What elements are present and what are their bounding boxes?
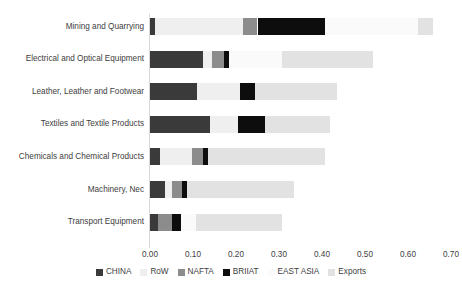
legend-label: BRIIAT	[233, 267, 259, 277]
legend-swatch-icon	[268, 269, 275, 276]
bar-segment-china[interactable]	[150, 181, 165, 198]
bar-segment-nafta[interactable]	[192, 148, 203, 165]
legend-item-east-asia[interactable]: EAST ASIA	[268, 267, 320, 277]
bar-segment-exports[interactable]	[187, 181, 295, 198]
bar-segment-china[interactable]	[150, 83, 197, 100]
bar-segment-briiat[interactable]	[238, 116, 265, 133]
legend-label: NAFTA	[188, 267, 214, 277]
legend-item-nafta[interactable]: NAFTA	[178, 267, 214, 277]
bar-segment-briiat[interactable]	[240, 83, 255, 100]
bar-segment-nafta[interactable]	[158, 214, 172, 231]
bar-segment-row[interactable]	[210, 116, 238, 133]
legend-item-exports[interactable]: Exports	[328, 267, 366, 277]
bar-segment-row[interactable]	[165, 181, 172, 198]
bar-segment-briiat[interactable]	[172, 214, 180, 231]
bar-segment-briiat[interactable]	[258, 18, 326, 35]
bar-row	[0, 83, 462, 100]
bar-segment-nafta[interactable]	[243, 18, 257, 35]
legend-swatch-icon	[140, 269, 147, 276]
x-tick-label: 0.30	[259, 250, 299, 260]
legend-swatch-icon	[223, 269, 230, 276]
bar-segment-exports[interactable]	[265, 116, 330, 133]
bar-segment-nafta[interactable]	[212, 51, 223, 68]
bar-row	[0, 181, 462, 198]
bar-segment-exports[interactable]	[418, 18, 433, 35]
bar-segment-row[interactable]	[197, 83, 240, 100]
bar-row	[0, 148, 462, 165]
legend-swatch-icon	[96, 269, 103, 276]
bar-segment-east-asia[interactable]	[325, 18, 417, 35]
bar-segment-china[interactable]	[150, 214, 158, 231]
legend-label: Exports	[338, 267, 366, 277]
legend-item-china[interactable]: CHINA	[96, 267, 131, 277]
bar-segment-exports[interactable]	[255, 83, 337, 100]
bar-row	[0, 214, 462, 231]
bar-segment-exports[interactable]	[282, 51, 372, 68]
plot-area: Mining and QuarryingElectrical and Optic…	[0, 0, 462, 290]
legend-item-briiat[interactable]: BRIIAT	[223, 267, 259, 277]
bar-segment-east-asia[interactable]	[229, 51, 283, 68]
bar-segment-exports[interactable]	[208, 148, 324, 165]
x-tick-label: 0.70	[431, 250, 462, 260]
x-tick-label: 0.20	[216, 250, 256, 260]
x-tick-label: 0.60	[388, 250, 428, 260]
bar-segment-china[interactable]	[150, 51, 203, 68]
bar-row	[0, 116, 462, 133]
bar-segment-china[interactable]	[150, 116, 210, 133]
stacked-bar-chart: Mining and QuarryingElectrical and Optic…	[0, 0, 462, 290]
bar-segment-exports[interactable]	[196, 214, 282, 231]
legend-label: CHINA	[106, 267, 131, 277]
bar-row	[0, 51, 462, 68]
legend-item-row[interactable]: RoW	[140, 267, 168, 277]
bar-segment-east-asia[interactable]	[181, 214, 196, 231]
chart-legend: CHINARoWNAFTABRIIATEAST ASIAExports	[0, 267, 462, 277]
bar-row	[0, 18, 462, 35]
bar-segment-china[interactable]	[150, 148, 160, 165]
bar-segment-row[interactable]	[203, 51, 212, 68]
x-tick-label: 0.50	[345, 250, 385, 260]
legend-label: RoW	[150, 267, 168, 277]
legend-label: EAST ASIA	[278, 267, 320, 277]
legend-swatch-icon	[178, 269, 185, 276]
x-tick-label: 0.40	[302, 250, 342, 260]
x-tick-label: 0.00	[130, 250, 170, 260]
bar-segment-row[interactable]	[155, 18, 243, 35]
bar-segment-nafta[interactable]	[172, 181, 182, 198]
x-tick-label: 0.10	[173, 250, 213, 260]
legend-swatch-icon	[328, 269, 335, 276]
bar-segment-row[interactable]	[160, 148, 192, 165]
